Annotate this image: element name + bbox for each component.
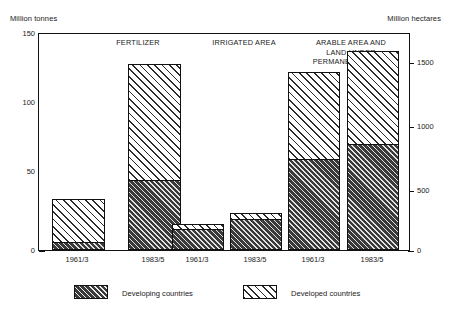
bar-fertilizer-1983-5 [128, 64, 181, 250]
left-tick-100: 100 [22, 98, 35, 107]
right-tick-500-label: 500 [417, 186, 430, 195]
right-tick-1000-label: 1000 [417, 122, 434, 131]
left-tick-100-label: 100 [22, 98, 35, 107]
left-axis-caption: Million tonnes [10, 14, 57, 23]
left-tick-0: 0 [31, 246, 35, 255]
bar-arable-area-1961-3 [288, 72, 340, 250]
x-label-irrigated-1983-5: 1983/5 [226, 255, 284, 264]
chart-figure: Million tonnes Million hectares 150 100 … [0, 0, 449, 322]
right-tick-0-label: 0 [417, 246, 421, 255]
legend-label-developing: Developing countries [122, 289, 193, 298]
bar-segment-developing [172, 229, 224, 250]
right-tick-1000: 1000 [414, 122, 434, 131]
right-tick-500: 500 [414, 186, 430, 195]
x-label-fertilizer-1961-3: 1961/3 [48, 255, 106, 264]
right-tick-1500: 1500 [414, 58, 434, 67]
bar-arable-area-1983-5 [347, 51, 399, 250]
legend-swatch-developing [74, 285, 108, 299]
left-tick-50: 50 [27, 167, 35, 176]
bar-segment-developed [52, 199, 105, 243]
left-tick-50-label: 50 [27, 167, 35, 176]
x-label-irrigated-1961-3: 1961/3 [168, 255, 226, 264]
right-tick-0: 0 [414, 246, 421, 255]
right-tick-1500-label: 1500 [417, 58, 434, 67]
bar-fertilizer-1961-3 [52, 199, 105, 250]
bar-segment-developing [52, 242, 105, 250]
bar-segment-developed [347, 51, 399, 145]
right-axis-caption: Million hectares [387, 14, 441, 23]
left-tick-150-label: 150 [22, 29, 35, 38]
bar-segment-developed [288, 72, 340, 160]
plot-area: FERTILIZER IRRIGATED AREA ARABLE AREA AN… [38, 33, 410, 251]
bar-segment-developed [128, 64, 181, 181]
bar-segment-developing [230, 219, 282, 250]
bar-segment-developing [347, 144, 399, 250]
bar-irrigated-area-1961-3 [172, 224, 224, 250]
x-label-arable-1983-5: 1983/5 [343, 255, 401, 264]
left-tick-150: 150 [22, 29, 35, 38]
left-tick-0-label: 0 [31, 246, 35, 255]
bar-irrigated-area-1983-5 [230, 213, 282, 250]
bar-segment-developing [288, 159, 340, 250]
legend-swatch-developed [243, 285, 277, 299]
legend-label-developed: Developed countries [291, 289, 360, 298]
x-label-arable-1961-3: 1961/3 [284, 255, 342, 264]
